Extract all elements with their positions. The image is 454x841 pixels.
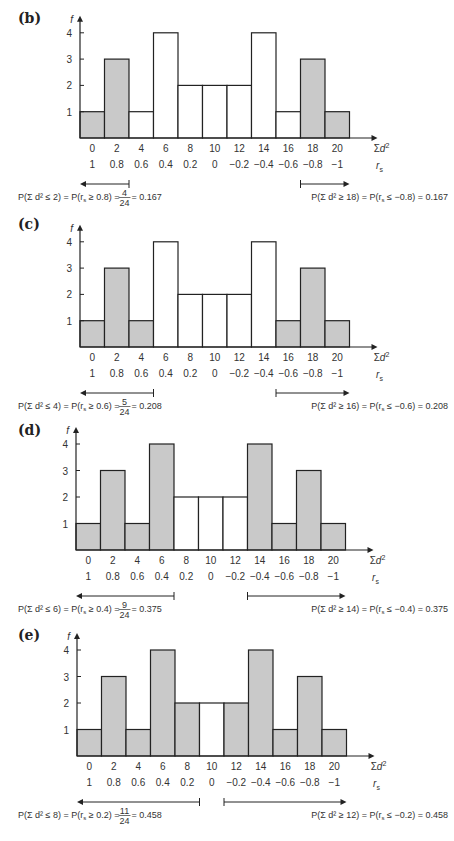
y-axis-arrow-icon — [74, 633, 80, 639]
x-tick-label: 16 — [280, 761, 292, 772]
histogram-bar — [249, 650, 274, 756]
y-tick-label: 2 — [63, 698, 69, 709]
histogram: f12340120.840.660.480.210012−0.214−0.416… — [0, 0, 454, 841]
left-tail-probability: P(Σ d² ≤ 8) = P(rs ≥ 0.2) = — [18, 810, 119, 821]
histogram-bar — [126, 730, 151, 757]
right-tail-probability: P(Σ d² ≥ 12) = P(rs ≤ −0.2) = 0.458 — [311, 810, 448, 821]
arrow-left-icon — [77, 799, 83, 805]
y-tick-label: 3 — [63, 672, 69, 683]
y-tick-label: 4 — [63, 645, 69, 656]
rs-tick-label: 0 — [209, 777, 215, 788]
histogram-bar — [200, 703, 225, 756]
rs-tick-label: 0.6 — [131, 777, 145, 788]
chart-panel-e: (e)f12340120.840.660.480.210012−0.214−0.… — [0, 0, 454, 841]
histogram-bar — [273, 730, 298, 757]
x-axis-label: Σd2 — [371, 760, 387, 772]
left-tail-result: = 0.458 — [131, 810, 161, 820]
histogram-bar — [102, 677, 127, 757]
y-axis-label: f — [67, 631, 71, 642]
rs-tick-label: 0.2 — [180, 777, 194, 788]
x-tick-label: 2 — [111, 761, 117, 772]
histogram-bar — [224, 703, 249, 756]
x-tick-label: 18 — [304, 761, 316, 772]
rs-tick-label: −0.6 — [275, 777, 295, 788]
fraction-numerator: 11 — [120, 806, 129, 816]
y-tick-label: 1 — [63, 725, 69, 736]
x-tick-label: 14 — [255, 761, 267, 772]
histogram-bar — [175, 703, 200, 756]
x-tick-label: 20 — [329, 761, 341, 772]
arrow-right-icon — [341, 799, 347, 805]
histogram-bar — [77, 730, 102, 757]
rs-tick-label: −0.8 — [300, 777, 320, 788]
rs-tick-label: −1 — [329, 777, 341, 788]
x-tick-label: 10 — [206, 761, 218, 772]
rs-tick-label: −0.2 — [226, 777, 246, 788]
histogram-bar — [322, 730, 347, 757]
histogram-bar — [298, 677, 323, 757]
rs-tick-label: −0.4 — [251, 777, 271, 788]
rs-axis-label: rs — [373, 778, 380, 791]
rs-tick-label: 1 — [86, 777, 92, 788]
x-axis-arrow-icon — [369, 753, 375, 759]
fraction-denominator: 24 — [119, 816, 129, 826]
histogram-bar — [151, 650, 176, 756]
x-tick-label: 12 — [231, 761, 243, 772]
rs-tick-label: 0.4 — [156, 777, 170, 788]
rs-tick-label: 0.8 — [107, 777, 121, 788]
x-tick-label: 6 — [160, 761, 166, 772]
x-tick-label: 4 — [135, 761, 141, 772]
x-tick-label: 8 — [184, 761, 190, 772]
x-tick-label: 0 — [86, 761, 92, 772]
